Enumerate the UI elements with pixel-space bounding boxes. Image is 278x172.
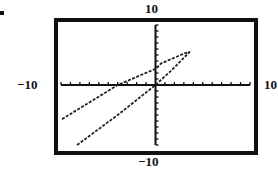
- plotted-curve: [61, 52, 190, 145]
- axes: [61, 25, 250, 145]
- curve-line: [61, 52, 190, 145]
- graph-window: [0, 0, 278, 172]
